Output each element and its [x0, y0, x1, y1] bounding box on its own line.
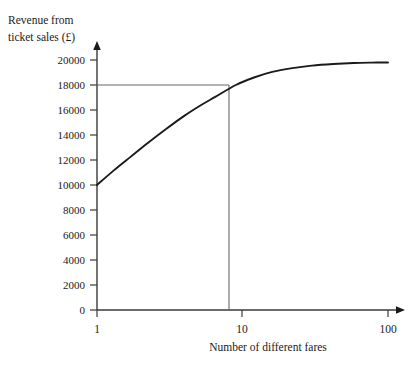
y-tick-label-2000: 2000: [63, 279, 86, 291]
y-axis-tick-labels: 0 2000 4000 6000 8000 10000 12000 14000 …: [58, 54, 86, 316]
y-axis-title-line2: ticket sales (£): [8, 31, 75, 44]
y-tick-label-8000: 8000: [63, 204, 86, 216]
y-tick-label-0: 0: [80, 304, 86, 316]
y-axis: [93, 41, 101, 310]
revenue-curve: [97, 63, 388, 186]
x-tick-label-100: 100: [379, 323, 397, 335]
y-tick-label-18000: 18000: [58, 79, 86, 91]
x-axis-tick-labels: 1 10 100: [94, 323, 397, 335]
x-axis-title: Number of different fares: [209, 341, 327, 353]
y-tick-label-12000: 12000: [58, 154, 86, 166]
x-tick-label-1: 1: [94, 323, 100, 335]
y-axis-ticks: [90, 60, 97, 310]
chart-page: 0 2000 4000 6000 8000 10000 12000 14000 …: [0, 0, 414, 370]
y-axis-title-line1: Revenue from: [8, 14, 74, 26]
y-tick-label-16000: 16000: [58, 104, 86, 116]
y-tick-label-6000: 6000: [63, 229, 86, 241]
y-axis-title: Revenue from ticket sales (£): [8, 14, 75, 44]
y-tick-label-14000: 14000: [58, 129, 86, 141]
y-tick-label-4000: 4000: [63, 254, 86, 266]
x-axis-arrow-icon: [396, 306, 405, 314]
x-axis: [97, 306, 405, 314]
y-tick-label-20000: 20000: [58, 54, 86, 66]
y-axis-arrow-icon: [93, 41, 101, 50]
x-axis-ticks: [97, 310, 388, 317]
y-tick-label-10000: 10000: [58, 179, 86, 191]
revenue-line-chart: 0 2000 4000 6000 8000 10000 12000 14000 …: [0, 0, 414, 370]
x-tick-label-10: 10: [236, 323, 248, 335]
